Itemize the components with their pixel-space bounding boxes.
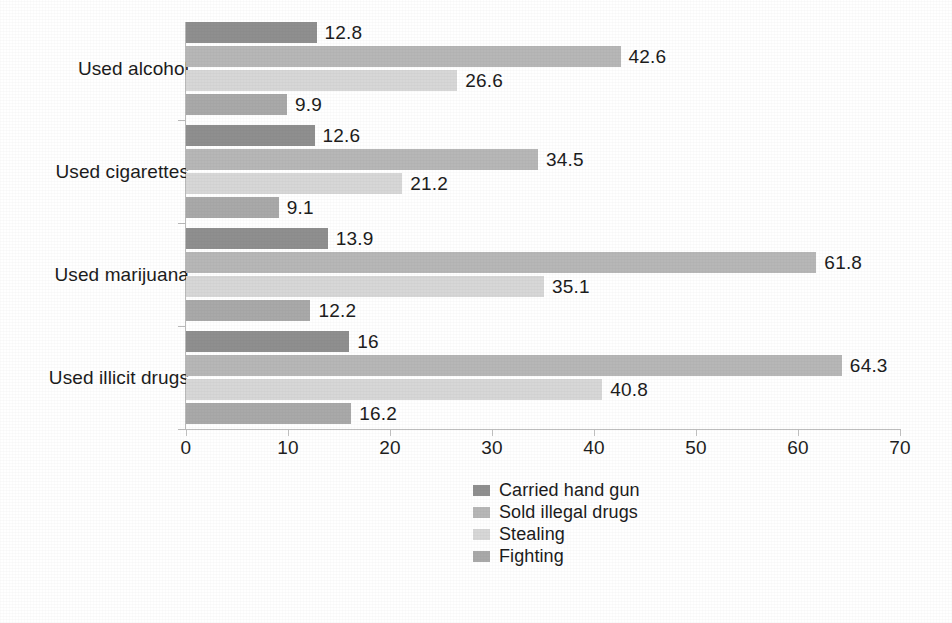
bar-value-label: 16.2 <box>359 402 397 424</box>
bar-value-label: 35.1 <box>552 275 590 297</box>
bar[interactable] <box>186 300 310 321</box>
bar-value-label: 12.2 <box>318 299 356 321</box>
x-axis-tick-label: 70 <box>889 437 911 459</box>
category-label: Used cigarettes <box>55 161 189 183</box>
x-axis-tick <box>186 430 187 436</box>
bar-group: 12.634.521.29.1 <box>186 125 900 218</box>
y-axis-tick <box>178 223 186 224</box>
legend-label: Fighting <box>499 546 564 567</box>
bar-value-label: 64.3 <box>850 354 888 376</box>
bar[interactable] <box>186 173 402 194</box>
x-axis-tick-label: 0 <box>181 437 192 459</box>
bar-value-label: 40.8 <box>610 378 648 400</box>
x-axis-tick <box>390 430 391 436</box>
x-axis-tick <box>900 430 901 436</box>
legend-label: Carried hand gun <box>499 480 640 501</box>
bar-chart: 010203040506070 Used alcoholUsed cigaret… <box>0 0 952 623</box>
bar[interactable] <box>186 331 349 352</box>
bar-value-label: 26.6 <box>465 69 503 91</box>
bar-value-label: 12.8 <box>325 21 363 43</box>
bar[interactable] <box>186 403 351 424</box>
category-label: Used marijuana <box>55 264 189 286</box>
y-axis-tick <box>178 120 186 121</box>
bar[interactable] <box>186 46 621 67</box>
bar-row: 61.8 <box>186 252 900 273</box>
bar-value-label: 42.6 <box>629 45 667 67</box>
bar-value-label: 13.9 <box>336 227 374 249</box>
bar-value-label: 9.1 <box>287 196 314 218</box>
x-axis-tick-label: 40 <box>583 437 605 459</box>
x-axis-tick <box>492 430 493 436</box>
x-axis-tick <box>288 430 289 436</box>
legend-item[interactable]: Fighting <box>473 545 640 567</box>
bar-row: 21.2 <box>186 173 900 194</box>
bar[interactable] <box>186 94 287 115</box>
bar-group: 1664.340.816.2 <box>186 331 900 424</box>
bar-value-label: 34.5 <box>546 148 584 170</box>
bar-row: 26.6 <box>186 70 900 91</box>
bar-row: 12.8 <box>186 22 900 43</box>
x-axis-tick-label: 50 <box>685 437 707 459</box>
bar-group: 13.961.835.112.2 <box>186 228 900 321</box>
bar[interactable] <box>186 252 816 273</box>
bar[interactable] <box>186 379 602 400</box>
bar-row: 34.5 <box>186 149 900 170</box>
bar-row: 64.3 <box>186 355 900 376</box>
x-axis-tick-label: 10 <box>277 437 299 459</box>
legend-swatch-icon <box>473 485 490 496</box>
bar[interactable] <box>186 228 328 249</box>
bar-value-label: 12.6 <box>323 124 361 146</box>
bar-value-label: 16 <box>357 330 379 352</box>
x-axis-tick-label: 30 <box>481 437 503 459</box>
x-axis-tick <box>696 430 697 436</box>
legend-label: Stealing <box>499 524 565 545</box>
x-axis-tick <box>798 430 799 436</box>
bar-group: 12.842.626.69.9 <box>186 22 900 115</box>
x-axis-line <box>186 429 901 430</box>
bar-row: 9.9 <box>186 94 900 115</box>
legend-item[interactable]: Sold illegal drugs <box>473 501 640 523</box>
bar-value-label: 21.2 <box>410 172 448 194</box>
bar[interactable] <box>186 125 315 146</box>
legend-swatch-icon <box>473 551 490 562</box>
plot-area: 12.842.626.69.912.634.521.29.113.961.835… <box>186 22 900 428</box>
legend-label: Sold illegal drugs <box>499 502 638 523</box>
legend-item[interactable]: Stealing <box>473 523 640 545</box>
bar[interactable] <box>186 22 317 43</box>
bar[interactable] <box>186 197 279 218</box>
legend-item[interactable]: Carried hand gun <box>473 479 640 501</box>
bar-row: 16 <box>186 331 900 352</box>
y-axis-tick <box>178 326 186 327</box>
legend-swatch-icon <box>473 529 490 540</box>
bar-value-label: 9.9 <box>295 93 322 115</box>
legend-swatch-icon <box>473 507 490 518</box>
x-axis-tick-label: 20 <box>379 437 401 459</box>
bar[interactable] <box>186 70 457 91</box>
bar-value-label: 61.8 <box>824 251 862 273</box>
bar-row: 42.6 <box>186 46 900 67</box>
x-axis-tick <box>594 430 595 436</box>
bar-row: 13.9 <box>186 228 900 249</box>
y-axis-tick <box>178 429 186 430</box>
bar-row: 35.1 <box>186 276 900 297</box>
category-label: Used illicit drugs <box>49 367 189 389</box>
category-label: Used alcohol <box>78 58 189 80</box>
bar-row: 16.2 <box>186 403 900 424</box>
bar-row: 12.6 <box>186 125 900 146</box>
bar-row: 9.1 <box>186 197 900 218</box>
x-axis-tick-label: 60 <box>787 437 809 459</box>
bar-row: 40.8 <box>186 379 900 400</box>
bar[interactable] <box>186 355 842 376</box>
bar-row: 12.2 <box>186 300 900 321</box>
chart-legend: Carried hand gunSold illegal drugsSteali… <box>473 479 640 567</box>
bar[interactable] <box>186 276 544 297</box>
bar[interactable] <box>186 149 538 170</box>
